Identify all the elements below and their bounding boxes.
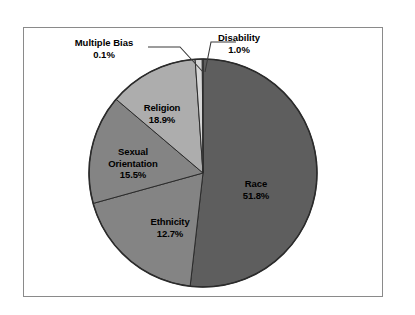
slice-label-ethnicity-name: Ethnicity <box>136 216 204 228</box>
slice-label-religion-name: Religion <box>128 102 196 114</box>
slice-label-multiple-bias-value: 0.1% <box>58 49 150 61</box>
pie-chart-figure: Multiple Bias 0.1% Disability 1.0% Relig… <box>0 0 415 315</box>
slice-label-sexual-orientation-value: 15.5% <box>96 169 170 181</box>
slice-label-disability-value: 1.0% <box>206 44 272 56</box>
slice-label-religion-value: 18.9% <box>128 114 196 126</box>
slice-label-disability-name: Disability <box>206 32 272 44</box>
slice-label-sexual-orientation: Sexual Orientation 15.5% <box>96 146 170 181</box>
slice-label-multiple-bias: Multiple Bias 0.1% <box>58 37 150 60</box>
slice-label-religion: Religion 18.9% <box>128 102 196 125</box>
slice-label-race-name: Race <box>222 178 290 190</box>
slice-label-race: Race 51.8% <box>222 178 290 201</box>
slice-label-ethnicity: Ethnicity 12.7% <box>136 216 204 239</box>
pie-slice-race <box>190 59 317 287</box>
slice-label-disability: Disability 1.0% <box>206 32 272 55</box>
slice-label-sexual-orientation-line1: Sexual <box>96 146 170 158</box>
slice-label-multiple-bias-name: Multiple Bias <box>58 37 150 49</box>
slice-label-sexual-orientation-line2: Orientation <box>96 158 170 170</box>
slice-label-ethnicity-value: 12.7% <box>136 228 204 240</box>
slice-label-race-value: 51.8% <box>222 190 290 202</box>
